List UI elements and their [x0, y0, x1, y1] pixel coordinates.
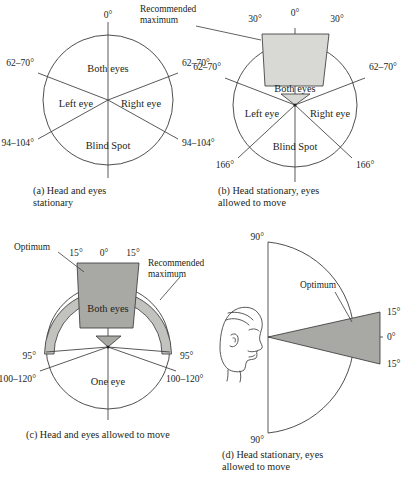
panel-a-angle-lower-right: 94–104° — [182, 137, 215, 148]
panel-b-angle-lower-left: 166° — [216, 159, 234, 170]
head-profile-icon — [220, 307, 262, 382]
panel-b-angle-upper-right: 62–70° — [369, 61, 397, 72]
panel-b-region-both-eyes: Both eyes — [274, 83, 315, 94]
panel-d-caption-line1: (d) Head stationary, eyes — [222, 449, 323, 461]
panel-b-caption-line1: (b) Head stationary, eyes — [218, 185, 319, 197]
panel-c-angle-wedge-right: 15° — [126, 247, 140, 258]
panel-a-region-blind-spot: Blind Spot — [86, 140, 131, 151]
panel-d-caption-line2: allowed to move — [222, 461, 290, 472]
panel-c-optimum-wedge — [77, 263, 139, 328]
panel-c-angle-lower-left: 100–120° — [0, 373, 36, 384]
panel-a: 0° 62–70° 62–70° 94–104° 94–104° Both ey… — [1, 9, 214, 208]
panel-c-caption-line1: (c) Head and eyes allowed to move — [26, 429, 170, 441]
panel-c: Optimum Recommended maximum 15° 0° 15° 9… — [0, 242, 205, 441]
panel-d: Optimum 90° 90° 15° 0° 15° (d) Head stat… — [220, 231, 401, 472]
panel-d-optimum-label: Optimum — [300, 280, 337, 290]
panel-c-angle-wedge-left: 15° — [69, 247, 83, 258]
visual-field-figure: 0° 62–70° 62–70° 94–104° 94–104° Both ey… — [0, 0, 410, 486]
panel-c-recommended-line1: Recommended — [148, 258, 205, 268]
panel-a-angle-upper-left: 62–70° — [6, 57, 34, 68]
panel-c-optimum-label: Optimum — [14, 242, 51, 252]
panel-d-optimum-wedge — [268, 312, 380, 364]
panel-d-angle-upper: 15° — [387, 306, 401, 317]
panel-b-region-right-eye: Right eye — [310, 108, 350, 119]
panel-c-angle-top: 0° — [100, 247, 109, 258]
panel-a-region-both-eyes: Both eyes — [87, 63, 128, 74]
panel-a-region-left-eye: Left eye — [59, 98, 94, 109]
panel-c-inner-wedge — [96, 336, 121, 347]
panel-a-angle-top: 0° — [104, 9, 113, 20]
panel-b: Recommended maximum 0° 30° 30° 62–70° 62… — [140, 4, 397, 208]
panel-a-caption-line1: (a) Head and eyes — [33, 185, 106, 197]
panel-c-angle-band-right: 95° — [180, 350, 194, 361]
panel-b-recommended-line1: Recommended — [140, 4, 197, 14]
panel-b-inner-wedge — [281, 94, 310, 105]
panel-b-recommended-wedge — [262, 34, 329, 86]
panel-c-region-both-eyes: Both eyes — [87, 303, 128, 314]
panel-a-caption-line2: stationary — [33, 197, 74, 208]
panel-b-region-blind-spot: Blind Spot — [273, 141, 318, 152]
panel-d-angle-bottom: 90° — [251, 434, 265, 445]
panel-b-region-left-eye: Left eye — [245, 108, 280, 119]
panel-b-caption-line2: allowed to move — [218, 197, 286, 208]
panel-b-angle-lower-right: 166° — [356, 159, 374, 170]
panel-c-recommended-line2: maximum — [148, 269, 187, 279]
panel-d-angle-center: 0° — [387, 331, 396, 342]
panel-b-angle-wedge-right: 30° — [330, 13, 344, 24]
panel-c-angle-band-left: 95° — [23, 350, 37, 361]
panel-b-angle-upper-left: 62–70° — [193, 61, 221, 72]
panel-c-angle-lower-right: 100–120° — [166, 373, 204, 384]
panel-a-region-right-eye: Right eye — [121, 98, 161, 109]
panel-a-angle-lower-left: 94–104° — [1, 137, 34, 148]
panel-b-angle-top: 0° — [291, 7, 300, 18]
panel-c-region-one-eye: One eye — [91, 376, 126, 387]
panel-b-angle-wedge-left: 30° — [248, 13, 262, 24]
panel-d-angle-lower: 15° — [387, 358, 401, 369]
panel-b-recommended-line2: maximum — [140, 15, 179, 25]
panel-d-angle-top: 90° — [251, 231, 265, 242]
